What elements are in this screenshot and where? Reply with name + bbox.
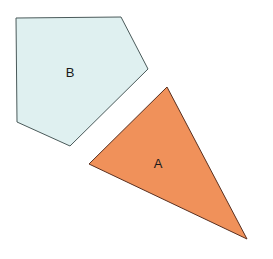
shapes-diagram: B A (0, 0, 273, 259)
triangle-a (89, 87, 247, 239)
triangle-a-label: A (154, 156, 163, 171)
pentagon-b-label: B (66, 65, 75, 80)
